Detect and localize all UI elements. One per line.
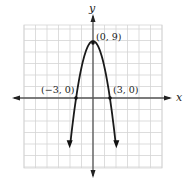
y-axis-label: y [88,2,96,15]
x-axis-left-arrow-icon [12,96,20,101]
y-axis-down-arrow-icon [91,170,96,178]
x-axis-right-arrow-icon [164,96,172,101]
parabola-graph: x y (0, 9) (−3, 0) (3, 0) [0,0,190,180]
left-root-point [74,96,78,100]
right-root-point [108,96,112,100]
x-axis-label: x [176,91,183,104]
axes: x y [12,2,183,178]
labeled-points: (0, 9) (−3, 0) (3, 0) [41,31,139,100]
right-root-label: (3, 0) [113,84,139,95]
y-axis-up-arrow-icon [91,14,96,22]
vertex-label: (0, 9) [96,31,122,42]
left-root-label: (−3, 0) [41,84,75,95]
vertex-point [91,41,95,45]
